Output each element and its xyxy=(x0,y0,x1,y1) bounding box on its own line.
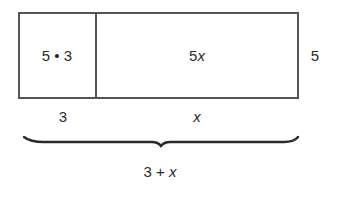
total-width-text: 3 + x xyxy=(144,163,177,180)
total-width-label: 3 + x xyxy=(144,164,177,180)
area-model-diagram: 5 • 3 5x 5 3 x 3 + x xyxy=(0,0,348,199)
